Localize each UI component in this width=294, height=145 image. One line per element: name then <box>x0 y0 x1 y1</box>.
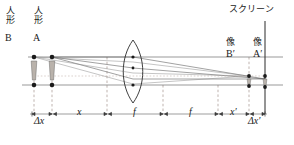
tick-f1-right <box>160 112 163 115</box>
ray-b-lower-out <box>133 76 249 84</box>
object-b-body <box>31 61 37 80</box>
object-b-letter-label: B <box>5 33 12 43</box>
convex-lens <box>123 40 143 103</box>
dimension-label-f-right: f <box>189 107 192 117</box>
object-b-head <box>32 55 37 60</box>
lens-node-upper <box>131 55 134 58</box>
image-b-head <box>247 74 251 78</box>
image-a-jp-label: 像 <box>253 38 262 47</box>
dimension-label-x: x <box>77 107 81 117</box>
image-a-head <box>263 74 267 78</box>
object-a-body <box>49 61 55 80</box>
lens-nodes <box>131 55 134 86</box>
image-b-jp-label: 像 <box>226 38 235 47</box>
tick-f1-left <box>109 112 112 115</box>
tick-dx-right <box>49 112 52 115</box>
lens-node-mid <box>132 67 135 70</box>
image-a-body <box>263 79 267 85</box>
screen-jp-label: スクリーン <box>229 5 274 14</box>
image-a-base <box>263 85 267 89</box>
dimension-label-delta-x-prime: Δx′ <box>248 116 261 126</box>
tick-f2-right <box>215 112 218 115</box>
image-b-doll <box>247 74 251 88</box>
object-a-head <box>50 55 55 60</box>
tick-x-right <box>104 112 107 115</box>
optics-ray-diagram-figure: 人形 B 人形 A スクリーン 像 B′ 像 A′ Δx x f f x′ Δx… <box>0 0 294 145</box>
dimension-label-x-prime: x′ <box>230 107 237 117</box>
tick-f2-left <box>165 112 168 115</box>
tick-xp-left <box>220 112 223 115</box>
tick-x-left <box>54 112 57 115</box>
object-a-jp-label: 人形 <box>33 6 42 24</box>
image-b-letter-label: B′ <box>226 49 235 59</box>
ray-b-upper-out <box>133 62 249 76</box>
image-b-base <box>247 84 251 88</box>
image-a-letter-label: A′ <box>253 49 262 59</box>
dimension-label-delta-x: Δx <box>34 116 44 126</box>
object-a-letter-label: A <box>33 33 40 43</box>
object-a-base <box>50 83 55 88</box>
image-a-doll <box>263 74 267 89</box>
lens-node-center <box>131 83 134 86</box>
object-b-jp-label: 人形 <box>5 6 14 24</box>
object-b-base <box>32 83 37 88</box>
dimension-label-f-left: f <box>133 107 136 117</box>
image-b-body <box>247 79 251 84</box>
